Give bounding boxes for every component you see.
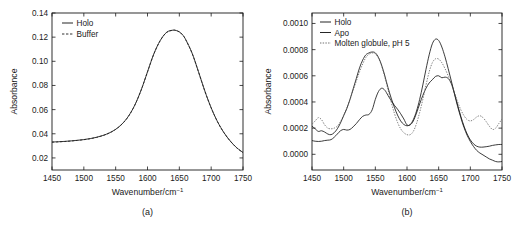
- legend-label: Molten globule, pH 5: [335, 39, 411, 48]
- panel-b: 14501500155016001650170017500.00000.0002…: [259, 0, 518, 238]
- y-tick-label: 0.04: [32, 130, 48, 139]
- y-tick-label: 0.0000: [283, 150, 308, 159]
- y-tick-label: 0.10: [32, 57, 48, 66]
- y-tick-label: 0.12: [32, 33, 48, 42]
- legend-label: Buffer: [77, 30, 99, 39]
- x-tick-label: 1550: [366, 174, 385, 183]
- x-tick-label: 1650: [430, 174, 449, 183]
- panel-caption: (a): [142, 207, 153, 217]
- x-tick-label: 1600: [398, 174, 417, 183]
- x-tick-label: 1550: [107, 174, 126, 183]
- x-axis-title: Wavenumber/cm−1: [112, 187, 184, 197]
- y-tick-label: 0.02: [32, 154, 48, 163]
- y-axis-title: Absorbance: [263, 68, 273, 114]
- y-tick-label: 0.06: [32, 106, 48, 115]
- y-tick-label: 0.0008: [283, 46, 308, 55]
- series-curve: [52, 30, 243, 152]
- x-tick-label: 1700: [202, 174, 221, 183]
- y-tick-label: 0.14: [32, 9, 48, 18]
- x-tick-label: 1750: [234, 174, 253, 183]
- panel-a-plot: 14501500155016001650170017500.020.040.06…: [0, 0, 259, 238]
- y-tick-label: 0.0010: [283, 19, 308, 28]
- x-tick-label: 1500: [75, 174, 94, 183]
- y-tick-label: 0.08: [32, 81, 48, 90]
- x-tick-label: 1450: [43, 174, 62, 183]
- series-curve: [52, 30, 243, 152]
- series-curve: [312, 76, 502, 147]
- y-tick-label: 0.0006: [283, 72, 308, 81]
- legend-label: Holo: [77, 19, 94, 28]
- panel-b-plot: 14501500155016001650170017500.00000.0002…: [259, 0, 518, 238]
- x-tick-label: 1450: [303, 174, 322, 183]
- x-tick-label: 1750: [493, 174, 512, 183]
- y-tick-label: 0.0004: [283, 98, 308, 107]
- panel-a: 14501500155016001650170017500.020.040.06…: [0, 0, 259, 238]
- x-tick-label: 1500: [335, 174, 354, 183]
- x-tick-label: 1600: [138, 174, 157, 183]
- x-tick-label: 1700: [461, 174, 480, 183]
- x-axis-title: Wavenumber/cm−1: [371, 187, 443, 197]
- figure-container: 14501500155016001650170017500.020.040.06…: [0, 0, 518, 238]
- x-tick-label: 1650: [170, 174, 189, 183]
- y-tick-label: 0.0002: [283, 124, 308, 133]
- legend-label: Holo: [335, 18, 352, 27]
- y-axis-title: Absorbance: [9, 68, 19, 114]
- legend-label: Apo: [335, 29, 350, 38]
- panel-caption: (b): [402, 207, 413, 217]
